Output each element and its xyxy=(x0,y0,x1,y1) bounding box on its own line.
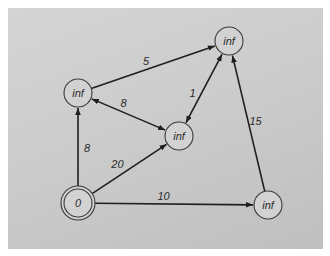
node-label: inf xyxy=(223,35,236,47)
edge-weight-label-s-d: 10 xyxy=(157,190,170,202)
edge-a-b xyxy=(91,46,215,89)
edge-weight-label-s-a: 8 xyxy=(84,142,91,154)
node-c: inf xyxy=(165,122,193,150)
graph-canvas: 8201058115 0infinfinfinf xyxy=(0,0,330,256)
node-label: inf xyxy=(72,87,85,99)
edge-weight-label-s-c: 20 xyxy=(110,158,124,170)
edge-weight-label-a-b: 5 xyxy=(143,55,150,67)
edge-weight-label-a-c: 8 xyxy=(120,97,127,109)
node-a: inf xyxy=(64,79,92,107)
node-label: inf xyxy=(173,130,186,142)
edge-weight-label-c-b: 1 xyxy=(189,87,195,99)
node-label: 0 xyxy=(75,197,82,209)
edge-weight-label-d-b: 15 xyxy=(249,115,262,127)
start-node: 0 xyxy=(61,186,95,220)
edge-s-c xyxy=(92,144,166,193)
node-d: inf xyxy=(254,191,282,219)
edge-a-c xyxy=(92,99,165,130)
node-label: inf xyxy=(262,199,275,211)
edge-s-d xyxy=(95,203,253,205)
node-b: inf xyxy=(215,27,243,55)
